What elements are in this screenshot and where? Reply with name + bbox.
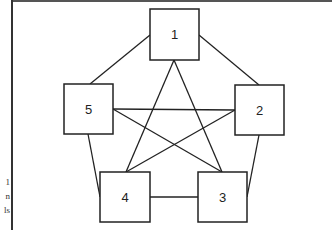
node-3: 3 [198,172,247,222]
edge-2-3 [247,135,259,197]
node-1-label: 1 [171,27,178,42]
node-2: 2 [235,85,284,135]
graph-diagram: 1 2 3 4 5 [0,0,332,230]
edge-1-3 [174,60,222,172]
node-5-label: 5 [85,102,92,117]
node-2-label: 2 [256,103,263,118]
edge-5-2 [113,109,235,110]
node-4-label: 4 [121,190,128,205]
node-5: 5 [64,84,113,134]
node-3-label: 3 [219,190,226,205]
edge-1-5 [90,35,150,84]
edge-1-4 [126,60,174,172]
edge-1-2 [199,35,259,85]
edge-5-4 [88,134,100,197]
node-1: 1 [150,9,199,60]
node-4: 4 [100,172,150,222]
